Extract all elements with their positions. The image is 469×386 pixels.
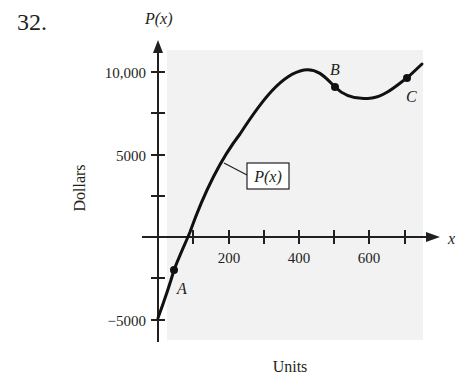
point-a-label: A: [176, 280, 187, 297]
y-tick-label-neg5000: −5000: [108, 313, 146, 329]
point-c-label: C: [406, 88, 417, 105]
x-axis-name: x: [447, 230, 455, 247]
curve-label: P(x): [253, 168, 282, 186]
point-b-label: B: [330, 61, 340, 78]
y-tick-label-5000: 5000: [116, 148, 146, 164]
point-b-marker: [331, 83, 339, 91]
y-axis-arrow-icon: [153, 40, 163, 53]
y-tick-label-10000: 10,000: [105, 65, 146, 81]
x-axis-arrow-icon: [426, 232, 440, 242]
y-axis-label: Dollars: [71, 164, 88, 211]
problem-number: 32.: [17, 9, 47, 35]
profit-chart: 32. P(x) x 10,000 5000 −5000 200 400 600…: [0, 0, 469, 386]
point-c-marker: [403, 74, 411, 82]
x-tick-label-200: 200: [218, 250, 241, 266]
y-axis-name: P(x): [144, 10, 173, 28]
x-axis-label: Units: [273, 358, 308, 375]
x-tick-label-400: 400: [288, 250, 311, 266]
point-a-marker: [170, 266, 178, 274]
x-tick-label-600: 600: [358, 250, 381, 266]
